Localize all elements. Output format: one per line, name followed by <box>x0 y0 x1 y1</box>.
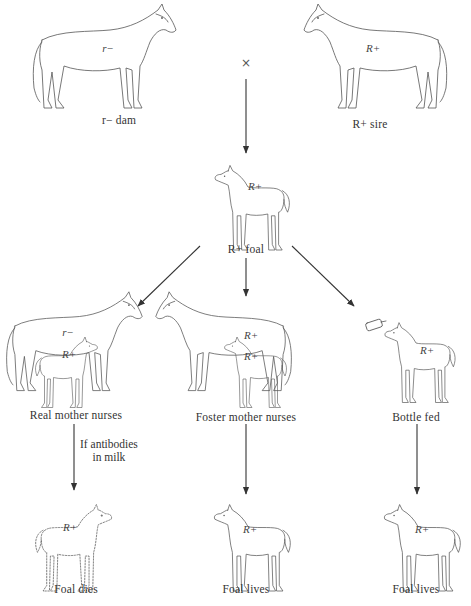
dam-horse-drawing <box>33 4 176 108</box>
dam-label: r− dam <box>102 114 136 126</box>
foster-mother-label: Foster mother nurses <box>196 411 296 423</box>
dead-foal-genotype: R+ <box>63 521 77 533</box>
condition-line-1: If antibodies <box>80 438 138 451</box>
foster-mother-foal-drawing <box>225 337 287 408</box>
foster-outcome-genotype: R+ <box>243 523 257 535</box>
bottle-outcome-foal-drawing <box>384 505 460 591</box>
real-mother-label: Real mother nurses <box>30 409 122 421</box>
foal-label: R+ foal <box>228 243 264 255</box>
sire-genotype: R+ <box>366 42 380 54</box>
foal-genotype: R+ <box>248 180 262 192</box>
bottle-fed-genotype: R+ <box>420 344 434 356</box>
hemolytic-disease-foal-diagram: × r− r− dam R+ R+ sire R+ R+ foal r− R+ … <box>0 0 471 606</box>
foster-mother-drawing <box>156 292 292 391</box>
dam-genotype: r− <box>102 42 114 54</box>
real-mother-drawing <box>7 292 143 391</box>
bottle-fed-label: Bottle fed <box>392 411 440 423</box>
real-mother-genotype: r− <box>62 326 74 338</box>
foster-mother-foal-genotype: R+ <box>244 350 258 362</box>
bottle-outcome-genotype: R+ <box>415 523 429 535</box>
foster-mother-genotype: R+ <box>244 329 258 341</box>
real-mother-foal-genotype: R+ <box>62 348 76 360</box>
sire-label: R+ sire <box>352 118 387 130</box>
foal-dies-label: Foal dies <box>54 583 98 595</box>
antibodies-condition: If antibodies in milk <box>80 438 138 464</box>
arrow-to-real-mother <box>138 246 200 306</box>
cross-symbol: × <box>241 56 251 70</box>
bottle-fed-foal-drawing <box>385 323 455 403</box>
foster-foal-lives-label: Foal lives <box>222 583 269 595</box>
bottle-icon <box>365 319 386 332</box>
foster-outcome-foal-drawing <box>214 505 290 591</box>
dead-foal-drawing <box>36 505 112 591</box>
condition-line-2: in milk <box>80 451 138 464</box>
sire-horse-drawing <box>304 4 447 108</box>
arrow-to-bottle-fed <box>292 246 354 306</box>
foal-drawing <box>215 165 289 250</box>
bottle-foal-lives-label: Foal lives <box>392 583 439 595</box>
